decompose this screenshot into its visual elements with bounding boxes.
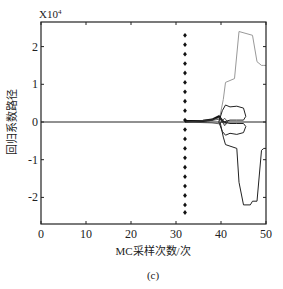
regression-path-chart: 01020304050210-1-2 X104 回归系数路径 MC采样次数/次 … <box>0 0 283 289</box>
series-upper-inner-path <box>219 105 246 122</box>
axes: 01020304050210-1-2 <box>28 22 272 241</box>
diamond-marker <box>183 193 187 198</box>
y-tick-label: 2 <box>32 40 38 54</box>
y-scale-label: X104 <box>39 8 62 20</box>
diamond-marker <box>183 210 187 215</box>
y-tick-label: -1 <box>28 153 38 167</box>
x-tick-label: 0 <box>38 227 44 241</box>
diamond-marker <box>183 127 187 132</box>
x-axis-label: MC采样次数/次 <box>115 244 190 257</box>
y-tick-label: 0 <box>32 115 38 129</box>
diamond-marker <box>183 89 187 94</box>
diamond-marker <box>183 80 187 85</box>
diamond-marker <box>183 174 187 179</box>
diamond-marker <box>183 52 187 57</box>
y-scale-exponent: 4 <box>58 8 62 16</box>
x-tick-label: 50 <box>260 227 272 241</box>
diamond-marker <box>183 99 187 104</box>
diamond-marker <box>183 165 187 170</box>
y-tick-label: 1 <box>32 77 38 91</box>
diamond-marker <box>183 155 187 160</box>
diamond-marker <box>183 108 187 113</box>
diamond-marker <box>183 33 187 38</box>
figure-caption: (c) <box>147 269 160 282</box>
plot-area <box>41 32 266 215</box>
series-upper-gray-path <box>219 32 266 123</box>
diamond-marker <box>183 137 187 142</box>
diamond-marker <box>183 71 187 76</box>
y-axis-label: 回归系数路径 <box>5 89 18 155</box>
x-tick-label: 30 <box>170 227 182 241</box>
x-tick-label: 20 <box>125 227 137 241</box>
diamond-marker <box>183 146 187 151</box>
diamond-marker <box>183 42 187 47</box>
x-tick-label: 40 <box>215 227 227 241</box>
diamond-marker <box>183 184 187 189</box>
x-tick-label: 10 <box>80 227 92 241</box>
diamond-marker <box>183 203 187 208</box>
diamond-marker <box>183 61 187 66</box>
y-tick-label: -2 <box>28 190 38 204</box>
